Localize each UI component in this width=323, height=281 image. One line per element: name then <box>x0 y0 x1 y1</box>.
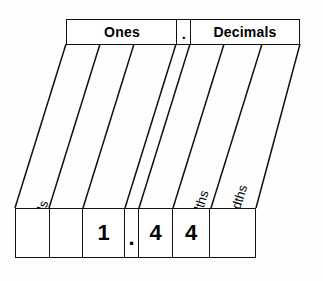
digit-cell-hundredths[interactable]: 4 <box>172 208 211 258</box>
digit-cell-hundreds[interactable] <box>15 208 50 258</box>
digit-cell-ones[interactable]: 1 <box>82 208 125 258</box>
digit-row: 1 . 4 4 <box>15 208 256 258</box>
slant-line-0 <box>15 44 66 208</box>
slant-lines <box>0 44 323 210</box>
slant-line-1 <box>49 44 100 208</box>
place-value-chart: Ones . Decimals hundreds tens ones <box>0 0 323 281</box>
header-cell-decimals: Decimals <box>190 19 300 45</box>
chart-header: Ones . Decimals <box>66 19 300 45</box>
slant-line-2 <box>83 44 134 208</box>
slant-line-4 <box>139 44 190 208</box>
digit-cell-tenths[interactable]: 4 <box>138 208 173 258</box>
slant-line-5 <box>173 44 224 208</box>
slant-line-7 <box>256 44 300 208</box>
digit-cell-tens[interactable] <box>49 208 84 258</box>
header-cell-ones: Ones <box>66 19 178 45</box>
slant-line-3 <box>125 44 176 208</box>
digit-cell-thousandths[interactable] <box>209 208 256 258</box>
slanted-column-band: hundreds tens ones tenths hundredths tho… <box>0 44 323 210</box>
